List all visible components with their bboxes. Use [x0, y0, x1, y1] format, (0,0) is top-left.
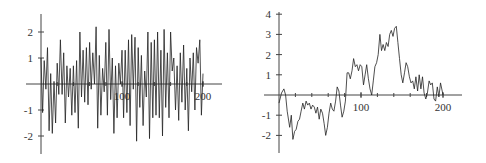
chart-random-walk: -2-11234100200 [262, 8, 462, 153]
y-tick-label: 4 [266, 8, 272, 20]
y-tick-label: -2 [262, 129, 271, 141]
x-tick-label: 100 [353, 101, 370, 113]
x-tick-label: 200 [435, 101, 452, 113]
y-tick-label: 1 [28, 52, 34, 64]
y-tick-label: -1 [262, 109, 271, 121]
y-tick-label: 3 [266, 28, 272, 40]
chart-white-noise: -2-112100200 [24, 14, 222, 154]
y-tick-label: 2 [266, 49, 272, 61]
charts-canvas: -2-112100200 -2-11234100200 [0, 0, 486, 163]
y-tick-label: -2 [24, 130, 33, 142]
y-tick-label: 2 [28, 26, 34, 38]
series-line-random-walk [279, 26, 443, 139]
x-tick-label: 200 [195, 90, 212, 102]
y-tick-label: -1 [24, 104, 33, 116]
y-tick-label: 1 [266, 69, 272, 81]
